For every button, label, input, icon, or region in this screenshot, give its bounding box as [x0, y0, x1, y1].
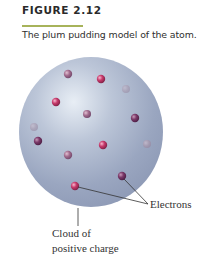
- electron: [122, 85, 130, 93]
- cloud-label-line2: positive charge: [52, 241, 119, 256]
- electron: [64, 151, 72, 159]
- electron: [143, 140, 151, 148]
- electron: [131, 114, 139, 122]
- electron: [118, 172, 126, 180]
- electron: [99, 141, 107, 149]
- electron: [83, 110, 91, 118]
- cloud-label-line1: Cloud of: [52, 226, 91, 241]
- electrons-label: Electrons: [150, 197, 192, 212]
- electron: [52, 98, 60, 106]
- electron: [71, 182, 79, 190]
- electron: [34, 137, 42, 145]
- electron: [64, 70, 72, 78]
- positive-charge-cloud: [19, 57, 163, 207]
- electron: [30, 123, 38, 131]
- electron: [97, 75, 105, 83]
- plum-pudding-diagram: [0, 0, 208, 276]
